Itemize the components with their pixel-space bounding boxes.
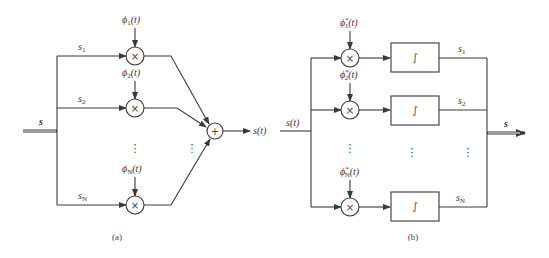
multiply-icon: × (346, 105, 354, 116)
integral-icon: ∫ (412, 52, 417, 63)
ellipsis-paths: ⋮ (187, 142, 198, 155)
basis-phiN-conj: ϕ*N(t) (340, 165, 360, 179)
basis-phi2-conj: ϕ*2(t) (340, 68, 358, 82)
out-s2: s2 (458, 95, 466, 108)
integral-icon: ∫ (412, 201, 417, 212)
caption-b: (b) (408, 232, 419, 242)
coef-s2: s2 (78, 93, 86, 106)
coef-sN: sN (78, 190, 87, 203)
multiply-icon: × (131, 103, 139, 114)
output-label-s: s (503, 118, 508, 129)
input-label-s: s (38, 116, 43, 127)
multiply-icon: × (131, 200, 139, 211)
basis-phiN: ϕN(t) (122, 163, 142, 176)
output-label-st: s(t) (253, 125, 267, 137)
branch-n: ϕ*N(t) × ∫ sN (311, 165, 487, 221)
multiply-icon: × (131, 51, 139, 62)
branch-1: ϕ*1(t) × ∫ s1 (311, 16, 487, 72)
ellipsis-integrators: ⋮ (407, 146, 418, 159)
caption-a: (a) (112, 232, 122, 242)
basis-phi2: ϕ2(t) (122, 67, 141, 80)
basis-phi1-conj: ϕ*1(t) (340, 16, 358, 30)
branch-2: ϕ*2(t) × ∫ s2 (311, 68, 487, 125)
ellipsis-multipliers: ⋮ (130, 142, 141, 155)
basis-phi1: ϕ1(t) (122, 14, 141, 27)
integral-icon: ∫ (412, 105, 417, 116)
diagram-canvas: s s1 ϕ1(t) × s2 ϕ2(t) × ⋮ ⋮ (0, 0, 549, 258)
branch-2: s2 ϕ2(t) × (57, 67, 206, 127)
ellipsis-multipliers: ⋮ (345, 142, 356, 155)
multiply-icon: × (346, 53, 354, 64)
out-s1: s1 (458, 43, 466, 56)
ellipsis-outputs: ⋮ (463, 146, 474, 159)
input-label-st: s(t) (286, 117, 300, 129)
coef-s1: s1 (78, 41, 86, 54)
multiply-icon: × (346, 202, 354, 213)
out-sN: sN (456, 192, 465, 205)
diagram-b-correlator: s(t) ϕ*1(t) × ∫ s1 ϕ*2(t) × ∫ s2 (280, 16, 525, 242)
plus-icon: + (211, 126, 219, 137)
diagram-a-synthesizer: s s1 ϕ1(t) × s2 ϕ2(t) × ⋮ ⋮ (23, 14, 267, 242)
